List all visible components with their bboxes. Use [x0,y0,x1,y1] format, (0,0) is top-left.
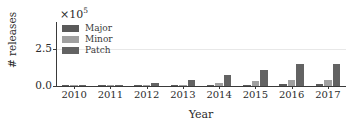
bar-patch-2013 [188,80,196,86]
legend-label-patch: Patch [85,46,110,55]
x-axis-label: Year [56,108,346,121]
bar-major-2017 [316,84,324,86]
legend-label-major: Major [85,24,112,33]
bar-patch-2014 [224,75,232,86]
bar-chart-figure: ×105 # releases 2.5 0.0 2010201120122013… [0,0,352,126]
exponent-power: 5 [83,6,88,15]
legend: Major Minor Patch [62,24,113,55]
bar-patch-2012 [151,83,159,86]
bar-major-2011 [98,85,106,86]
bar-minor-2013 [179,85,187,86]
bar-minor-2015 [252,81,260,86]
legend-item-minor: Minor [62,35,113,44]
bar-group-2015 [243,22,268,86]
legend-item-major: Major [62,24,113,33]
bar-group-2016 [279,22,304,86]
x-axis-line [56,86,346,87]
bar-group-2017 [316,22,341,86]
bar-major-2010 [62,85,70,86]
bar-minor-2012 [143,85,151,86]
bar-major-2016 [279,84,287,86]
bar-patch-2015 [260,70,268,86]
legend-swatch-minor [62,36,79,43]
bar-patch-2010 [79,85,87,86]
bar-major-2013 [171,85,179,86]
bar-minor-2014 [215,83,223,86]
bar-major-2012 [134,85,142,86]
x-tick-label: 2017 [306,89,350,100]
exponent-base: ×10 [60,8,83,21]
legend-item-patch: Patch [62,46,113,55]
bar-group-2012 [134,22,159,86]
legend-swatch-patch [62,47,79,54]
legend-label-minor: Minor [85,35,113,44]
y-tick-label: 0.0 [6,79,52,91]
bar-patch-2016 [296,64,304,86]
bar-minor-2011 [107,85,115,86]
y-tick-label: 2.5 [6,42,52,54]
axis-exponent-label: ×105 [60,6,88,21]
bar-minor-2010 [70,85,78,86]
bar-minor-2017 [324,80,332,86]
bar-group-2014 [207,22,232,86]
bar-minor-2016 [288,80,296,86]
bar-patch-2011 [115,85,123,86]
bar-patch-2017 [333,64,341,86]
bar-major-2015 [243,85,251,86]
y-tick-label-group: 2.5 0.0 [4,0,52,126]
legend-swatch-major [62,25,79,32]
y-tick-mark [53,86,56,87]
bar-group-2013 [171,22,196,86]
bar-major-2014 [207,85,215,86]
